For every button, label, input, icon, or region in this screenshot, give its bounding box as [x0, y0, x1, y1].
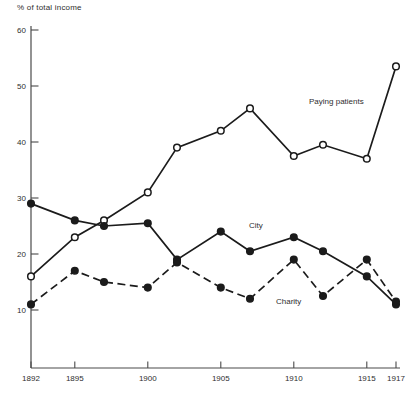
data-point-city — [101, 223, 108, 230]
data-point-paying-patients — [28, 273, 35, 280]
y-tick-label: 50 — [17, 82, 26, 91]
series-label: Paying patients — [309, 97, 364, 106]
y-tick-label: 60 — [17, 26, 26, 35]
data-point-charity — [218, 284, 225, 291]
data-point-charity — [320, 293, 327, 300]
data-point-city — [291, 234, 298, 241]
data-point-city — [320, 248, 327, 255]
chart-canvas: 1020304050601892189519001905191019151917… — [0, 0, 417, 397]
y-axis-title: % of total income — [17, 3, 82, 12]
x-tick-label: 1910 — [285, 374, 303, 383]
data-point-charity — [101, 279, 108, 286]
x-tick-label: 1892 — [22, 374, 40, 383]
x-tick-label: 1900 — [139, 374, 157, 383]
data-point-paying-patients — [145, 189, 152, 196]
y-tick-label: 40 — [17, 138, 26, 147]
series-line-city — [31, 204, 396, 305]
data-point-paying-patients — [291, 153, 298, 160]
data-point-paying-patients — [393, 63, 400, 70]
data-point-city — [247, 248, 254, 255]
line-chart-figure: % of total income 1020304050601892189519… — [0, 0, 417, 397]
data-point-charity — [72, 268, 79, 275]
data-point-charity — [364, 256, 371, 263]
y-tick-label: 10 — [17, 306, 26, 315]
data-point-city — [28, 200, 35, 207]
data-point-charity — [291, 256, 298, 263]
data-point-charity — [145, 284, 152, 291]
data-point-paying-patients — [174, 144, 181, 151]
data-point-city — [145, 220, 152, 227]
data-point-charity — [393, 298, 400, 305]
y-tick-label: 20 — [17, 250, 26, 259]
data-point-charity — [28, 301, 35, 308]
series-line-charity — [31, 260, 396, 305]
data-point-paying-patients — [247, 105, 254, 112]
series-label: Charity — [276, 297, 301, 306]
data-point-charity — [247, 296, 254, 303]
data-point-city — [364, 273, 371, 280]
x-tick-label: 1905 — [212, 374, 230, 383]
data-point-charity — [174, 259, 181, 266]
data-point-paying-patients — [364, 156, 371, 163]
data-point-city — [72, 217, 79, 224]
y-tick-label: 30 — [17, 194, 26, 203]
data-point-paying-patients — [218, 128, 225, 135]
data-point-city — [218, 228, 225, 235]
x-tick-label: 1895 — [66, 374, 84, 383]
x-tick-label: 1917 — [387, 374, 405, 383]
data-point-paying-patients — [72, 234, 79, 241]
x-tick-label: 1915 — [358, 374, 376, 383]
data-point-paying-patients — [320, 142, 327, 149]
series-label: City — [249, 221, 263, 230]
